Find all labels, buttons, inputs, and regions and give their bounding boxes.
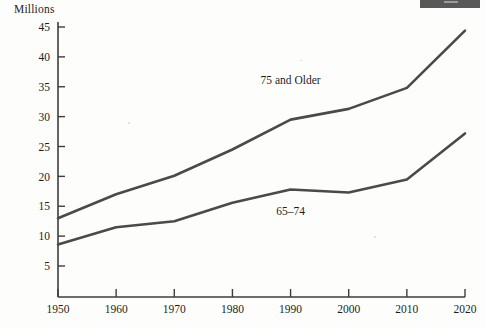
y-axis-tick-label: 30 [39, 111, 51, 123]
x-axis-tick-label: 1990 [279, 303, 302, 315]
x-axis-tick-labels: 19501960197019801990200020102020 [47, 303, 477, 315]
line-chart-plot: 51015202530354045 1950196019701980199020… [0, 0, 485, 329]
x-axis-tick-label: 2020 [454, 303, 477, 315]
data-series-line-lower [58, 133, 465, 244]
y-axis-tick-label: 20 [39, 171, 51, 183]
y-axis-tick-label: 10 [39, 230, 51, 242]
y-axis-tick-label: 25 [39, 141, 51, 153]
x-axis-tick-label: 1970 [163, 303, 186, 315]
x-axis: 19501960197019801990200020102020 [47, 289, 477, 315]
y-axis-tick-label: 5 [44, 260, 50, 272]
x-axis-tick-label: 1960 [105, 303, 128, 315]
x-axis-ticks [58, 289, 465, 297]
y-axis-tick-label: 35 [39, 81, 51, 93]
x-axis-tick-label: 1980 [221, 303, 244, 315]
data-series-line-upper [58, 31, 465, 219]
x-axis-tick-label: 1950 [47, 303, 70, 315]
data-series-group [58, 31, 465, 245]
series-label-lower: 65–74 [276, 205, 305, 217]
y-axis-tick-label: 15 [39, 200, 51, 212]
y-axis-tick-labels: 51015202530354045 [39, 21, 51, 272]
series-label-upper: 75 and Older [261, 74, 321, 86]
x-axis-tick-label: 2010 [395, 303, 418, 315]
y-axis: 51015202530354045 [39, 21, 66, 297]
y-axis-tick-label: 45 [39, 21, 51, 33]
series-inline-labels: 75 and Older65–74 [261, 74, 321, 217]
y-axis-ticks [58, 27, 65, 266]
x-axis-tick-label: 2000 [337, 303, 360, 315]
y-axis-tick-label: 40 [39, 51, 51, 63]
chart-page: Millions 51015202530354045 1950196019701… [0, 0, 485, 329]
